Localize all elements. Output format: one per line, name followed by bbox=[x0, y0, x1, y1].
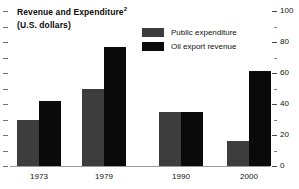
left-axis-tick-10 bbox=[3, 151, 8, 152]
left-axis-tick-50 bbox=[3, 89, 8, 90]
y-label-0: 0 bbox=[280, 162, 284, 170]
revenue-expenditure-chart: Revenue and Expenditure2 (U.S. dollars) … bbox=[0, 0, 299, 189]
x-axis-label-1979: 1979 bbox=[95, 172, 113, 181]
left-axis-tick-20 bbox=[3, 135, 8, 136]
y-label-60: 60 bbox=[280, 69, 289, 77]
x-axis-label-1990: 1990 bbox=[172, 172, 190, 181]
x-axis-label-2000: 2000 bbox=[240, 172, 258, 181]
bar-1973-oil-export-revenue bbox=[39, 101, 61, 166]
y-tick-major-20 bbox=[272, 135, 277, 136]
y-tick-major-0 bbox=[272, 166, 277, 167]
y-label-100: 100 bbox=[280, 7, 293, 15]
y-label-20: 20 bbox=[280, 131, 289, 139]
bar-1979-oil-export-revenue bbox=[104, 47, 126, 166]
y-tick-minor-50 bbox=[274, 89, 277, 90]
plot-area: 020406080100 1973197919902000 bbox=[0, 0, 299, 189]
y-tick-minor-90 bbox=[274, 27, 277, 28]
x-axis-baseline bbox=[10, 166, 270, 167]
left-axis-tick-40 bbox=[3, 104, 8, 105]
left-axis-tick-0 bbox=[3, 166, 8, 167]
left-axis-tick-100 bbox=[3, 11, 8, 12]
bar-2000-public-expenditure bbox=[227, 141, 249, 166]
bar-2000-oil-export-revenue bbox=[249, 71, 271, 166]
left-axis-tick-60 bbox=[3, 73, 8, 74]
bar-1979-public-expenditure bbox=[82, 89, 104, 167]
left-axis-tick-70 bbox=[3, 58, 8, 59]
y-tick-major-80 bbox=[272, 42, 277, 43]
x-axis-label-1973: 1973 bbox=[30, 172, 48, 181]
left-axis-tick-80 bbox=[3, 42, 8, 43]
y-tick-major-100 bbox=[272, 11, 277, 12]
left-axis-tick-90 bbox=[3, 27, 8, 28]
y-tick-minor-10 bbox=[274, 151, 277, 152]
bar-1973-public-expenditure bbox=[17, 120, 39, 167]
bar-1990-oil-export-revenue bbox=[181, 112, 203, 166]
y-tick-minor-70 bbox=[274, 58, 277, 59]
bar-1990-public-expenditure bbox=[159, 112, 181, 166]
y-tick-major-40 bbox=[272, 104, 277, 105]
y-label-40: 40 bbox=[280, 100, 289, 108]
y-tick-minor-30 bbox=[274, 120, 277, 121]
left-axis-tick-30 bbox=[3, 120, 8, 121]
y-tick-major-60 bbox=[272, 73, 277, 74]
y-label-80: 80 bbox=[280, 38, 289, 46]
